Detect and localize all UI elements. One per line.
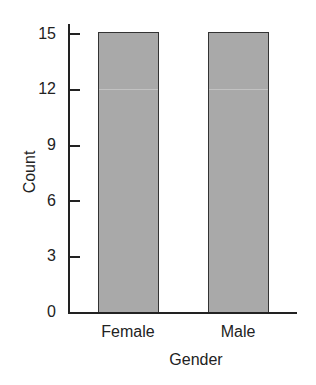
y-tick-label-15: 15 [26, 26, 56, 42]
y-tick-label-0: 0 [26, 304, 56, 320]
y-tick-label-12: 12 [26, 81, 56, 97]
y-tick-15 [69, 33, 80, 35]
x-tick-label-female: Female [88, 324, 168, 340]
y-tick-6 [69, 200, 80, 202]
y-axis-line [68, 24, 70, 314]
y-tick-9 [69, 145, 80, 147]
x-axis-line [68, 312, 297, 314]
bar-chart: Count 15 12 9 6 3 0 Female Male Gender [0, 0, 316, 385]
y-tick-label-9: 9 [26, 137, 56, 153]
x-tick-label-male: Male [198, 324, 278, 340]
y-tick-label-6: 6 [26, 193, 56, 209]
y-tick-3 [69, 256, 80, 258]
bar-female [98, 32, 159, 312]
bar-male [208, 32, 269, 312]
y-tick-12 [69, 89, 80, 91]
bar-texture-line [209, 89, 268, 90]
y-tick-label-3: 3 [26, 248, 56, 264]
bar-texture-line [99, 89, 158, 90]
x-axis-title: Gender [136, 352, 256, 368]
